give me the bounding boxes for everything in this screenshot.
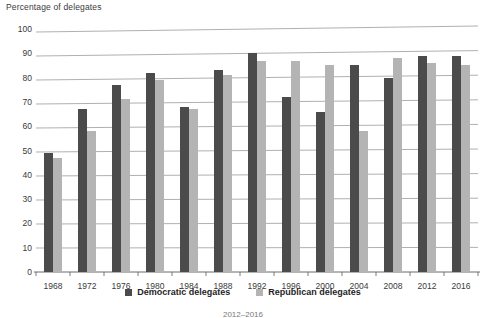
legend-label: Democratic delegates bbox=[137, 287, 230, 297]
bar-republican bbox=[359, 131, 368, 272]
bar-republican bbox=[53, 158, 62, 272]
legend-item: Republican delegates bbox=[256, 287, 361, 297]
bar-group bbox=[36, 29, 70, 272]
bar-republican bbox=[223, 75, 232, 272]
bar-republican bbox=[87, 131, 96, 272]
y-axis-title: Percentage of delegates bbox=[6, 2, 102, 12]
bar-group bbox=[104, 29, 138, 272]
bar-group bbox=[70, 29, 104, 272]
bar-democratic bbox=[44, 153, 53, 272]
bar-group bbox=[274, 29, 308, 272]
chart-legend: Democratic delegatesRepublican delegates bbox=[0, 287, 486, 297]
bar-democratic bbox=[78, 109, 87, 272]
bar-republican bbox=[291, 61, 300, 272]
bar-republican bbox=[121, 99, 130, 272]
y-tick-label: 30 bbox=[2, 194, 32, 204]
bar-democratic bbox=[282, 97, 291, 272]
bar-democratic bbox=[350, 65, 359, 272]
bar-group bbox=[206, 29, 240, 272]
bar-republican bbox=[257, 61, 266, 272]
y-tick-label: 70 bbox=[2, 97, 32, 107]
y-axis-ticks: 1009080706050403020100 bbox=[0, 29, 32, 272]
bar-democratic bbox=[418, 56, 427, 272]
bar-democratic bbox=[146, 73, 155, 272]
y-tick-label: 90 bbox=[2, 48, 32, 58]
bar-group bbox=[444, 29, 478, 272]
y-tick-label: 100 bbox=[2, 24, 32, 34]
bar-group bbox=[376, 29, 410, 272]
y-tick-label: 50 bbox=[2, 146, 32, 156]
bar-group bbox=[138, 29, 172, 272]
plot-area bbox=[36, 29, 478, 272]
bar-group bbox=[172, 29, 206, 272]
bar-democratic bbox=[316, 112, 325, 272]
y-tick-label: 60 bbox=[2, 121, 32, 131]
bar-group bbox=[342, 29, 376, 272]
bar-republican bbox=[325, 65, 334, 272]
chart-container: Percentage of delegates 1009080706050403… bbox=[0, 0, 486, 318]
legend-label: Republican delegates bbox=[268, 287, 361, 297]
y-tick-label: 0 bbox=[2, 267, 32, 277]
bars-layer bbox=[36, 29, 478, 272]
bar-republican bbox=[155, 80, 164, 272]
bar-democratic bbox=[248, 53, 257, 272]
bar-republican bbox=[427, 63, 436, 272]
bar-democratic bbox=[180, 107, 189, 272]
bar-democratic bbox=[384, 78, 393, 272]
y-tick-label: 10 bbox=[2, 243, 32, 253]
legend-swatch-icon bbox=[125, 289, 132, 296]
y-tick-label: 20 bbox=[2, 218, 32, 228]
y-tick-label: 80 bbox=[2, 73, 32, 83]
bar-republican bbox=[393, 58, 402, 272]
bar-group bbox=[308, 29, 342, 272]
bar-group bbox=[410, 29, 444, 272]
bar-democratic bbox=[112, 85, 121, 272]
bar-republican bbox=[189, 109, 198, 272]
bar-democratic bbox=[214, 70, 223, 272]
legend-swatch-icon bbox=[256, 289, 263, 296]
bar-republican bbox=[461, 65, 470, 272]
bar-group bbox=[240, 29, 274, 272]
bar-democratic bbox=[452, 56, 461, 272]
legend-item: Democratic delegates bbox=[125, 287, 230, 297]
y-tick-label: 40 bbox=[2, 170, 32, 180]
chart-footnote: 2012–2016 bbox=[0, 310, 486, 318]
